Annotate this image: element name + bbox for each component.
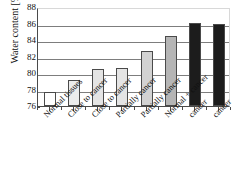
y-axis-tick-label: 82 [14,53,36,62]
y-axis-tick-label: 80 [14,69,36,78]
bar [213,24,225,106]
bar-chart-figure: Water content [%] 76788082848688 Normal … [0,0,236,174]
y-axis-tick-label: 86 [14,20,36,29]
y-axis-tick-label: 84 [14,36,36,45]
x-axis-category-labels: Normal tissuesClose to cancerClose to ca… [0,107,236,174]
y-axis-tick-label: 88 [14,3,36,12]
y-axis-tick-label: 78 [14,86,36,95]
